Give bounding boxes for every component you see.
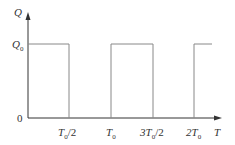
- square-wave-chart: Q Q0 0 T0/2 T0 3T0/2 2T0 T: [0, 0, 235, 145]
- x-tick-label: T0: [106, 126, 116, 141]
- x-axis-arrow-icon: [214, 116, 222, 121]
- y-axis-arrow-icon: [26, 12, 31, 20]
- origin-label: 0: [17, 112, 23, 124]
- x-axis-label: T: [214, 126, 221, 138]
- x-tick-label: 2T0: [186, 126, 202, 141]
- x-tick-label: T0/2: [58, 126, 76, 141]
- wave-pulse-2: [111, 44, 153, 118]
- q0-label: Q0: [12, 38, 24, 53]
- x-tick-label: 3T0/2: [139, 126, 164, 141]
- y-axis-label: Q: [14, 6, 22, 18]
- wave-pulse-3: [194, 44, 212, 118]
- wave-pulse-1: [28, 44, 69, 118]
